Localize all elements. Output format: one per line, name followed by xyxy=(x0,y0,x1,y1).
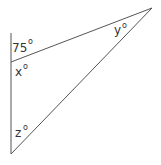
angle-z-label: z xyxy=(15,126,21,140)
triangle-diagram: 75 o x o y o z o xyxy=(0,0,161,165)
hypotenuse xyxy=(11,8,152,154)
exterior-angle-label: 75 xyxy=(12,41,27,55)
angle-x-degree: o xyxy=(23,62,28,71)
angle-z-degree: o xyxy=(23,123,28,132)
angle-y-degree: o xyxy=(122,21,127,30)
exterior-angle-degree: o xyxy=(28,37,33,46)
top-side xyxy=(11,8,152,62)
angle-y-label: y xyxy=(114,23,121,37)
angle-x-label: x xyxy=(15,65,22,79)
